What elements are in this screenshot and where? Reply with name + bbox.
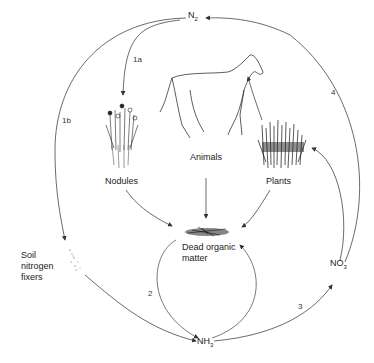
grass-plants-icon — [258, 120, 306, 168]
soil-bacteria-icon — [69, 249, 80, 270]
nitrogen-cycle-diagram: N2 NH3 NO3 Nodules Animals Plants Dead o… — [0, 0, 374, 363]
label-soil-nitrogen-fixers: Soil nitrogen fixers — [21, 250, 54, 283]
arrow-label-3: 3 — [298, 302, 302, 311]
arrow-label-4: 4 — [331, 88, 335, 97]
node-n2: N2 — [188, 10, 198, 25]
arrow-label-2: 2 — [148, 289, 152, 298]
label-nodules: Nodules — [105, 176, 138, 187]
horse-icon — [160, 55, 263, 138]
label-dead-organic-matter: Dead organic matter — [182, 242, 236, 264]
node-no3: NO3 — [330, 258, 347, 273]
node-nh3: NH3 — [197, 336, 213, 351]
nodule-plant-icon — [106, 104, 138, 168]
label-plants: Plants — [266, 176, 291, 187]
label-animals: Animals — [190, 152, 222, 163]
cycle-arrows — [0, 0, 374, 363]
dead-organic-matter-icon — [185, 227, 229, 236]
arrow-label-1a: 1a — [133, 55, 142, 64]
arrow-label-1b: 1b — [62, 116, 71, 125]
